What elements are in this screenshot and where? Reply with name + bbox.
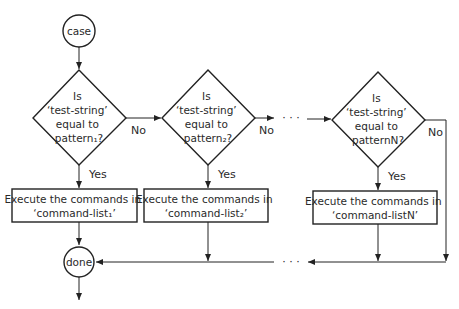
action-box-n: Execute the commands in ‘command-listN’	[305, 191, 445, 224]
action-n-line-1: Execute the commands in	[305, 195, 442, 207]
decision-1-line-4: pattern₁?	[55, 132, 103, 144]
decision-n-yes-label: Yes	[387, 170, 406, 183]
action-box-1: Execute the commands in ‘command-list₁’	[4, 189, 144, 222]
decision-n-line-2: ‘test-string’	[346, 106, 407, 118]
action-1-line-1: Execute the commands in	[4, 193, 141, 205]
decision-n-line-4: patternN?	[352, 134, 404, 146]
decision-2-line-2: ‘test-string’	[176, 104, 237, 116]
action-n-line-2: ‘command-listN’	[332, 209, 418, 221]
decision-2-line-3: equal to	[185, 118, 228, 130]
action-2-line-2: ‘command-list₂’	[165, 207, 248, 219]
decision-n-line-1: Is	[372, 92, 381, 104]
decision-1-yes-label: Yes	[88, 168, 107, 181]
decision-node-n: Is ‘test-string’ equal to patternN?	[332, 72, 425, 167]
end-node: done	[64, 247, 94, 277]
start-label: case	[67, 25, 91, 37]
decision-2-no-label: No	[259, 124, 274, 137]
end-label: done	[66, 256, 92, 268]
decision-2-line-1: Is	[202, 90, 211, 102]
decision-1-line-2: ‘test-string’	[47, 104, 108, 116]
decision-n-no-label: No	[428, 126, 443, 139]
action-2-line-1: Execute the commands in	[136, 193, 273, 205]
decision-2-line-4: pattern₂?	[184, 132, 232, 144]
action-1-line-2: ‘command-list₁’	[33, 207, 116, 219]
decision-1-line-1: Is	[73, 90, 82, 102]
decision-node-1: Is ‘test-string’ equal to pattern₁?	[33, 70, 126, 165]
decision-node-2: Is ‘test-string’ equal to pattern₂?	[162, 70, 255, 165]
action-box-2: Execute the commands in ‘command-list₂’	[136, 189, 276, 222]
ellipsis-bottom: · · ·	[282, 255, 299, 268]
decision-1-no-label: No	[131, 124, 146, 137]
decision-1-line-3: equal to	[56, 118, 99, 130]
decision-n-line-3: equal to	[355, 120, 398, 132]
flowchart: case Is ‘test-string’ equal to pattern₁?…	[0, 0, 459, 309]
start-node: case	[63, 15, 95, 47]
ellipsis-top: · · ·	[282, 111, 299, 124]
decision-2-yes-label: Yes	[217, 168, 236, 181]
